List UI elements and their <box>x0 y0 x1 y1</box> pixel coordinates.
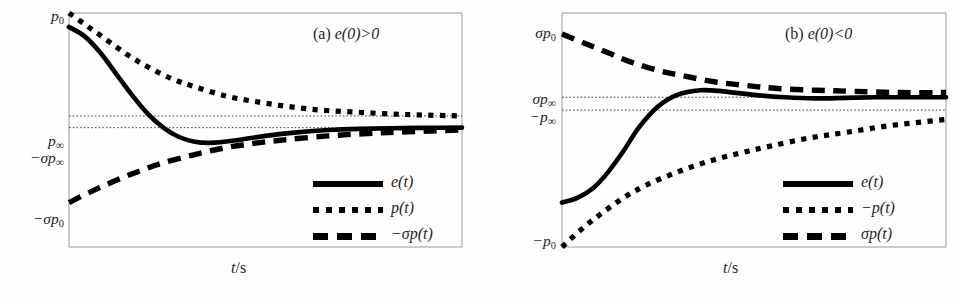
legend-label-p: p(t) <box>391 200 414 216</box>
panel-b-caption: (b) e(0)<0 <box>785 26 852 42</box>
panel-b-xaxis-label: t/s <box>723 260 738 276</box>
legend-swatch-dashed <box>313 233 383 240</box>
panel-a: p0 p∞ −σp∞ −σp0 (a) e(0)>0 e(t) p(t) − <box>0 0 480 298</box>
panel-b: σp0 σp∞ −p∞ −p0 (b) e(0)<0 e(t) −p(t) <box>480 0 960 298</box>
axis-label-sigma-p0: σp0 <box>494 25 556 43</box>
panel-a-xaxis-label: t/s <box>231 260 246 276</box>
legend-swatch-dashed <box>783 233 853 240</box>
curve-solid <box>69 27 462 143</box>
legend-swatch-solid <box>313 181 383 187</box>
axis-label-neg-sigma-p-inf: −σp∞ <box>0 150 64 168</box>
axis-label-p0: p0 <box>18 8 64 26</box>
axis-label-neg-sigma-p0: −σp0 <box>0 211 64 229</box>
curve-dotted <box>69 13 462 116</box>
legend-label-e: e(t) <box>861 174 883 190</box>
legend-label-sigma-p: −σp(t) <box>391 226 433 242</box>
panel-a-caption: (a) e(0)>0 <box>313 26 379 42</box>
legend-label-sigma-p: σp(t) <box>861 226 892 242</box>
axis-label-sigma-p-inf: σp∞ <box>488 91 556 109</box>
panel-b-plot <box>480 0 960 298</box>
legend-swatch-dotted <box>783 207 853 213</box>
legend-swatch-solid <box>783 181 853 187</box>
axis-label-neg-p-inf: −p∞ <box>488 109 556 127</box>
legend-label-neg-p: −p(t) <box>861 200 895 216</box>
curve-dashed <box>562 34 946 93</box>
figure-container: p0 p∞ −σp∞ −σp0 (a) e(0)>0 e(t) p(t) − <box>0 0 960 298</box>
legend-swatch-dotted <box>313 207 383 213</box>
panel-a-plot <box>0 0 480 298</box>
panel-a-legend: e(t) p(t) −σp(t) <box>313 174 463 244</box>
panel-b-legend: e(t) −p(t) σp(t) <box>783 174 943 244</box>
legend-label-e: e(t) <box>391 174 413 190</box>
axis-label-neg-p0: −p0 <box>488 233 556 251</box>
